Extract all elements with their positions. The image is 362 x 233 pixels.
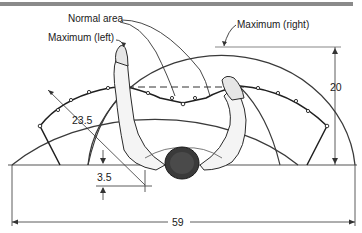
normal-area-label: Normal area (68, 13, 123, 24)
arrow-head (332, 158, 338, 164)
width-dimension-label: 59 (172, 216, 184, 228)
arrow-head (48, 90, 54, 95)
arrow-head (100, 158, 106, 164)
arrow-head (332, 48, 338, 54)
maximum-left-label: Maximum (left) (48, 32, 114, 43)
radius-dimension-label: 23.5 (72, 114, 93, 126)
top-rule (0, 2, 353, 6)
offset-dimension-label: 3.5 (97, 171, 112, 183)
work-area-diagram: Normal area Maximum (left) Maximum (righ… (0, 0, 362, 233)
maximum-right-label: Maximum (right) (237, 19, 309, 30)
arrow-head (100, 187, 106, 193)
person-illustration (114, 46, 246, 180)
arrow-head (12, 220, 18, 225)
arrow-head (222, 41, 227, 46)
depth-dimension-label: 20 (330, 81, 342, 93)
arrow-head (349, 220, 355, 225)
